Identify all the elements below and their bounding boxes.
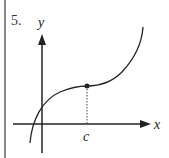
point-label-c: c xyxy=(83,129,90,144)
y-axis-label: y xyxy=(36,15,45,30)
x-axis-arrow-icon xyxy=(140,120,151,128)
marked-point xyxy=(85,84,90,89)
y-axis-arrow-icon xyxy=(38,34,46,45)
x-axis-label: x xyxy=(153,117,161,132)
graph: y x c xyxy=(0,0,169,158)
